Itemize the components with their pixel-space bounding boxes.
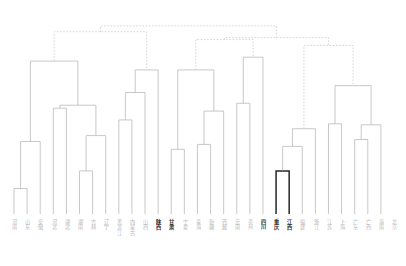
dendrogram-link	[328, 124, 341, 214]
dendrogram-link	[224, 38, 328, 46]
dendrogram-link	[21, 141, 41, 214]
dendrogram-link	[292, 129, 315, 214]
dendrogram-link	[60, 105, 96, 135]
dendrogram-link	[135, 70, 158, 214]
dendrogram-link	[119, 120, 132, 214]
dendrogram-link	[14, 189, 27, 214]
dendrogram-link	[335, 86, 371, 125]
dendrogram-figure: 河南山东安徽河北湖北湖南吉林辽宁黑龙江内蒙古山西陕西甘肃宁夏青海新疆西藏云南贵州…	[0, 0, 406, 266]
dendrogram-link	[237, 103, 250, 214]
dendrogram-link	[53, 108, 66, 214]
dendrogram-link	[283, 146, 303, 214]
dendrogram-link	[204, 111, 224, 214]
dendrogram-link	[197, 144, 210, 214]
dendrogram-link	[355, 140, 368, 214]
dendrogram-link	[54, 32, 147, 70]
dendrogram-link	[304, 45, 353, 128]
dendrogram-link	[30, 61, 78, 141]
dendrogram-link	[361, 125, 381, 214]
dendrogram-plot	[0, 0, 406, 266]
dendrogram-link	[243, 57, 263, 214]
dendrogram-link	[86, 136, 106, 214]
dendrogram-links	[14, 26, 381, 214]
dendrogram-link	[196, 40, 253, 70]
dendrogram-link	[171, 149, 184, 214]
dendrogram-link	[100, 26, 276, 38]
dendrogram-link	[80, 171, 93, 214]
dendrogram-link	[125, 92, 145, 214]
dendrogram-link	[178, 70, 214, 149]
dendrogram-link	[276, 171, 289, 214]
